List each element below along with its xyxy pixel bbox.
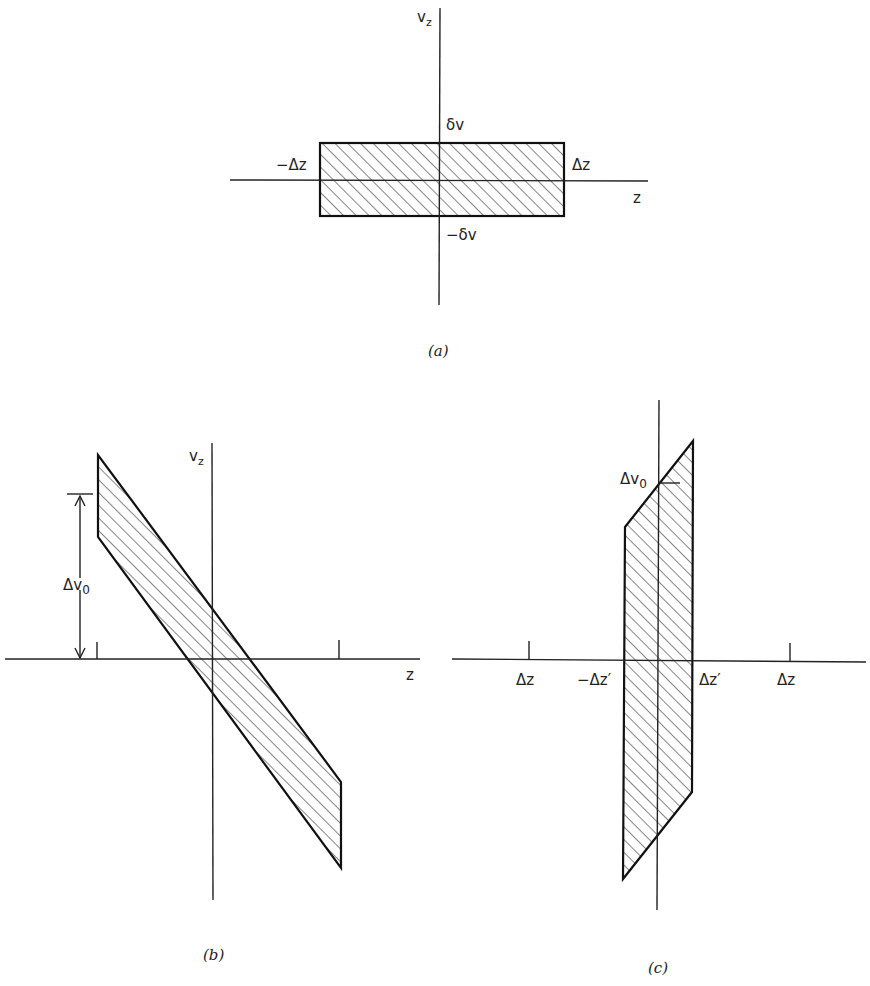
vz-axis-b	[212, 443, 213, 900]
tick-label-delta-z-left: Δz	[516, 671, 534, 689]
label-minus-delta-v: −δv	[446, 226, 477, 244]
axis-label-z-b: z	[406, 666, 414, 684]
caption-a: (a)	[428, 342, 449, 360]
tick-label-delta-z-right: Δz	[777, 671, 795, 689]
phase-space-diagram: vz z δv −δv −Δz Δz (a) Δv0 vz z (b) Δv0 …	[0, 0, 870, 986]
tick-label-delta-z-prime: Δz′	[699, 671, 721, 689]
label-delta-z: Δz	[572, 156, 590, 174]
axis-label-vz-b: vz	[189, 447, 204, 468]
panel-c: Δv0 Δz −Δz′ Δz′ Δz (c)	[452, 400, 866, 977]
caption-c: (c)	[648, 959, 668, 977]
label-delta-v0-b: Δv0	[63, 576, 90, 597]
caption-b: (b)	[203, 946, 224, 964]
initial-phase-rectangle	[320, 143, 564, 216]
axis-label-z-a: z	[633, 189, 641, 207]
tick-label-minus-delta-z-prime: −Δz′	[577, 671, 612, 689]
vz-axis-a	[439, 8, 440, 305]
z-axis-a	[230, 180, 648, 181]
label-delta-v: δv	[446, 116, 464, 134]
sheared-phase-region-b	[98, 455, 341, 868]
label-delta-v0-c: Δv0	[620, 470, 647, 491]
axis-label-vz-a: vz	[417, 8, 432, 29]
panel-b: Δv0 vz z (b)	[5, 443, 420, 964]
panel-a: vz z δv −δv −Δz Δz (a)	[230, 8, 648, 360]
label-minus-delta-z: −Δz	[276, 156, 307, 174]
